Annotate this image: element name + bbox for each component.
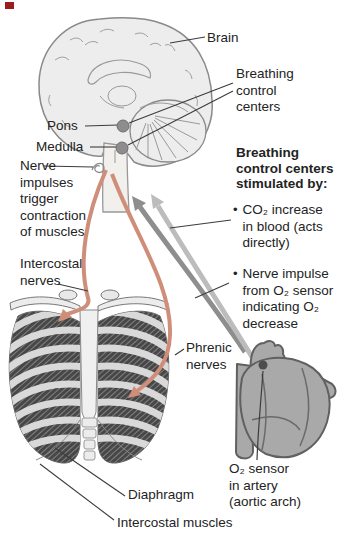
- cerebellum: [130, 100, 206, 162]
- figure-canvas: Brain Breathing control centers Pons Med…: [0, 0, 346, 544]
- medulla-center-dot: [116, 142, 128, 154]
- intercostal-muscles-pointer-line: [40, 464, 114, 520]
- o2-sensor-dot: [259, 361, 268, 370]
- phrenic-nerves-label: Phrenic nerves: [186, 340, 232, 373]
- pons-label: Pons: [47, 118, 78, 135]
- brain-label: Brain: [207, 30, 239, 47]
- heart-illustration: [236, 341, 335, 458]
- diaphragm-label: Diaphragm: [128, 487, 194, 504]
- pons-center-dot: [117, 120, 129, 132]
- bullet-icon: •: [233, 202, 238, 252]
- callout-bullet-co2: • CO₂ increase in blood (acts directly): [233, 202, 323, 252]
- callout-bullet-co2-text: CO₂ increase in blood (acts directly): [243, 202, 323, 252]
- intercostal-muscles-label: Intercostal muscles: [117, 515, 233, 532]
- bullet-icon: •: [233, 266, 238, 332]
- sternum: [80, 310, 98, 421]
- medulla-label: Medulla: [36, 139, 83, 156]
- o2-sensor-label: O₂ sensor in artery (aortic arch): [229, 461, 301, 511]
- ribcage-illustration: [8, 290, 170, 463]
- co2-bullet-pointer-line: [170, 220, 231, 228]
- phrenic-pointer-line: [175, 349, 184, 355]
- callout-bullet-nerve-impulse-text: Nerve impulse from O₂ sensor indicating …: [243, 266, 334, 332]
- callout-bullet-nerve-impulse: • Nerve impulse from O₂ sensor indicatin…: [233, 266, 333, 332]
- nerve-root-squiggle: [92, 163, 104, 172]
- callout-heading: Breathing control centers stimulated by:: [236, 145, 334, 192]
- nerve-impulses-label: Nerve impulses trigger contraction of mu…: [20, 158, 86, 241]
- breathing-control-centers-label: Breathing control centers: [236, 66, 294, 116]
- intercostal-nerves-label: Intercostal nerves: [20, 256, 82, 289]
